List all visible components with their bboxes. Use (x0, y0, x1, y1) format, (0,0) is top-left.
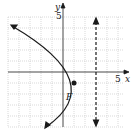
x-tick-label: 5 (115, 74, 121, 84)
y-tick-label: 5 (56, 11, 62, 21)
parabola-diagram: y 5 x 5 F (0, 0, 135, 136)
x-axis-label: x (125, 74, 130, 84)
focus-label: F (65, 92, 73, 102)
axes (8, 3, 129, 127)
focus-point (72, 81, 77, 86)
parabola (11, 25, 71, 128)
